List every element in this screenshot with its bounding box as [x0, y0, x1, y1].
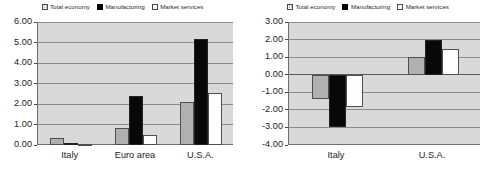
y-axis-tick-mark	[34, 104, 37, 105]
y-axis-tick-mark	[285, 145, 288, 146]
x-axis-category-label: U.S.A.	[168, 151, 233, 160]
bar-market-services	[346, 75, 363, 108]
y-axis-tick-label: 0.00	[265, 70, 283, 79]
bar-manufacturing	[425, 40, 442, 75]
gridline	[289, 22, 480, 23]
bar-total-economy	[312, 75, 329, 100]
y-axis-tick-mark	[34, 22, 37, 23]
bar-total-economy	[180, 102, 194, 145]
y-axis-tick-mark	[34, 63, 37, 64]
bar-manufacturing	[329, 75, 346, 127]
chart-panel-left: Total economy Manufacturing Market servi…	[0, 0, 245, 178]
y-axis-tick-label: 1.00	[265, 52, 283, 61]
bar-market-services	[208, 93, 222, 145]
gridline	[289, 39, 480, 40]
bar-total-economy	[115, 128, 129, 145]
y-axis-tick-label: 3.00	[265, 17, 283, 26]
bar-total-economy	[408, 57, 425, 75]
plot-wrapper-right: 3.002.001.000.00-1.00-2.00-3.00-4.00Ital…	[245, 0, 491, 178]
y-axis-tick-label: -3.00	[262, 122, 283, 131]
y-axis-tick-label: 0.00	[14, 140, 32, 149]
y-axis-tick-label: 5.00	[14, 38, 32, 47]
bar-market-services	[442, 49, 459, 74]
y-axis-tick-label: -1.00	[262, 87, 283, 96]
gridline	[38, 22, 233, 23]
y-axis-tick-mark	[34, 42, 37, 43]
y-axis-tick-mark	[285, 74, 288, 75]
y-axis-tick-label: 4.00	[14, 58, 32, 67]
bar-manufacturing	[64, 143, 78, 145]
gridline	[289, 127, 480, 128]
x-axis-category-label: Italy	[288, 151, 384, 160]
y-axis-tick-mark	[34, 83, 37, 84]
chart-panel-right: Total economy Manufacturing Market servi…	[245, 0, 491, 178]
y-axis-tick-label: -4.00	[262, 140, 283, 149]
y-axis-tick-mark	[34, 145, 37, 146]
y-axis-tick-mark	[285, 92, 288, 93]
bar-total-economy	[50, 138, 64, 145]
bar-manufacturing	[194, 39, 208, 145]
y-axis-tick-mark	[285, 22, 288, 23]
x-axis-category-label: Euro area	[102, 151, 167, 160]
bar-market-services	[143, 135, 157, 145]
y-axis-tick-mark	[285, 57, 288, 58]
y-axis-tick-mark	[285, 39, 288, 40]
bar-market-services	[78, 144, 92, 146]
y-axis-tick-mark	[34, 124, 37, 125]
y-axis-tick-label: 6.00	[14, 17, 32, 26]
gridline	[289, 109, 480, 110]
plot-area-left	[37, 22, 233, 145]
y-axis-tick-label: 1.00	[14, 120, 32, 129]
plot-area-right	[288, 22, 480, 145]
y-axis-tick-label: -2.00	[262, 105, 283, 114]
x-axis-category-label: U.S.A.	[384, 151, 480, 160]
two-chart-figure: Total economy Manufacturing Market servi…	[0, 0, 491, 178]
y-axis-tick-mark	[285, 109, 288, 110]
bar-manufacturing	[129, 96, 143, 145]
y-axis-tick-mark	[285, 127, 288, 128]
y-axis-tick-label: 2.00	[265, 35, 283, 44]
y-axis-tick-label: 3.00	[14, 79, 32, 88]
y-axis-tick-label: 2.00	[14, 99, 32, 108]
plot-wrapper-left: 6.005.004.003.002.001.000.00ItalyEuro ar…	[0, 0, 245, 178]
x-axis-category-label: Italy	[37, 151, 102, 160]
